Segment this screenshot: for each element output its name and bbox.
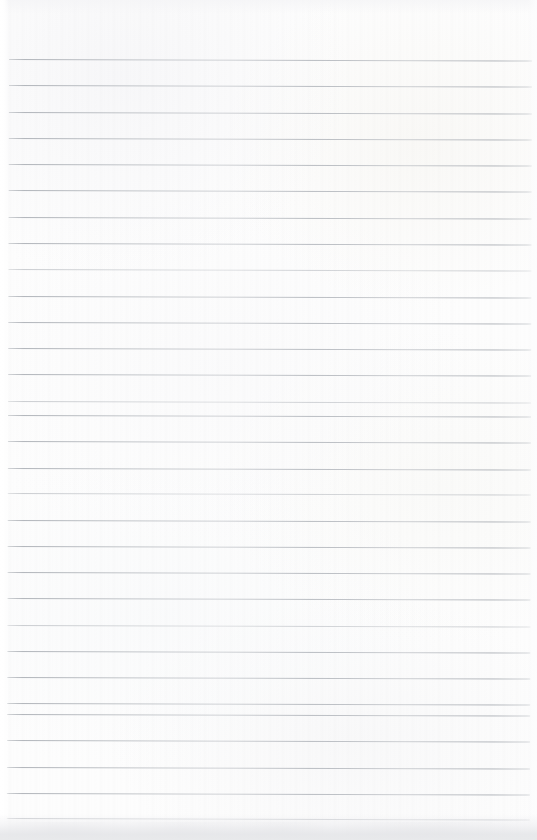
page-header-margin	[0, 0, 537, 59]
notebook-page: Blank ruled notebook page	[0, 0, 537, 840]
paper-background	[0, 0, 537, 840]
